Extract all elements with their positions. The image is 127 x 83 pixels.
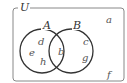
element-h: h (40, 56, 46, 67)
element-c: c (83, 36, 89, 47)
element-a: a (106, 14, 112, 25)
venn-diagram: U A B a d e h b c g f (0, 0, 127, 83)
set-a-label: A (42, 19, 51, 32)
universe-label: U (20, 1, 30, 14)
element-g: g (82, 52, 88, 63)
element-e: e (29, 47, 35, 58)
element-d: d (38, 36, 44, 47)
element-b: b (58, 46, 64, 57)
element-f: f (106, 69, 113, 80)
set-b-label: B (72, 19, 81, 32)
